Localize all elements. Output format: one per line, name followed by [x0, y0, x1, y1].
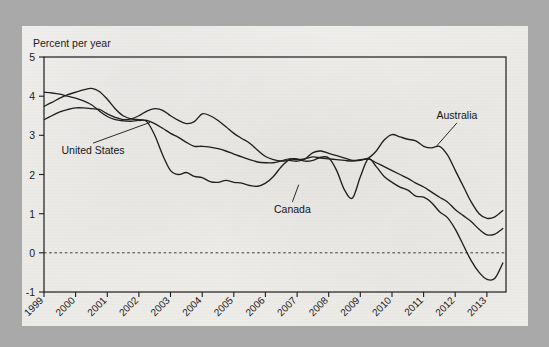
x-tick-label: 2009 [338, 294, 362, 318]
y-tick-0: 0 [29, 247, 44, 259]
x-tick-label: 2010 [370, 294, 394, 318]
series-label-australia: Australia [437, 109, 478, 121]
y-tick-3: 3 [29, 129, 44, 141]
y-tick-5: 5 [29, 51, 44, 63]
y-axis: 5 4 3 2 1 0 -1 [26, 51, 44, 298]
x-tick-label: 2002 [117, 294, 141, 318]
y-tick-2: 2 [29, 169, 44, 181]
x-tick-2002: 2002 [117, 292, 141, 318]
series-group [44, 88, 503, 280]
y-tick-label: 5 [29, 51, 35, 63]
x-tick-label: 2007 [275, 294, 299, 318]
y-tick-label: 0 [29, 247, 35, 259]
x-tick-2006: 2006 [243, 292, 267, 318]
x-tick-label: 2013 [465, 294, 489, 318]
leader-line-australia [436, 123, 457, 146]
annotation-united-states: United States [62, 122, 150, 156]
x-tick-2010: 2010 [370, 292, 394, 318]
x-tick-label: 2004 [180, 294, 204, 318]
annotation-australia: Australia [436, 109, 477, 146]
x-tick-2009: 2009 [338, 292, 362, 318]
x-tick-2011: 2011 [402, 292, 425, 318]
x-tick-2013: 2013 [465, 292, 489, 318]
y-tick-label: 3 [29, 129, 35, 141]
x-tick-2007: 2007 [275, 292, 299, 318]
x-tick-2005: 2005 [212, 292, 236, 318]
series-label-canada: Canada [274, 203, 311, 215]
x-tick-label: 2003 [148, 294, 172, 318]
x-tick-label: 2012 [433, 294, 457, 318]
y-tick-label: 1 [29, 208, 35, 220]
x-tick-label: 2000 [54, 294, 78, 318]
x-tick-label: 2006 [243, 294, 267, 318]
leader-line-united-states [93, 122, 150, 143]
series-line-united-states [44, 92, 503, 280]
x-tick-label: 2005 [212, 294, 236, 318]
y-tick-label: 2 [29, 169, 35, 181]
y-tick-label: -1 [26, 286, 35, 298]
y-axis-title: Percent per year [33, 37, 111, 49]
x-tick-2004: 2004 [180, 292, 204, 318]
line-chart: Percent per year 5 4 3 2 1 [0, 0, 549, 347]
figure-page: Percent per year 5 4 3 2 1 [0, 0, 549, 347]
leader-line-canada [292, 185, 298, 202]
x-tick-label: 2011 [402, 294, 425, 317]
y-tick-4: 4 [29, 90, 44, 102]
x-tick-2008: 2008 [307, 292, 331, 318]
y-tick-1: 1 [29, 208, 44, 220]
x-tick-2000: 2000 [54, 292, 78, 318]
series-label-united-states: United States [62, 144, 125, 156]
x-tick-label: 2008 [307, 294, 331, 318]
x-axis: 1999 2000 2001 2002 2003 2004 [22, 292, 489, 318]
y-tick-label: 4 [29, 90, 35, 102]
x-tick-2001: 2001 [85, 292, 109, 318]
x-tick-2003: 2003 [148, 292, 172, 318]
x-tick-2012: 2012 [433, 292, 457, 318]
annotation-canada: Canada [274, 185, 311, 215]
x-tick-label: 2001 [85, 294, 109, 318]
